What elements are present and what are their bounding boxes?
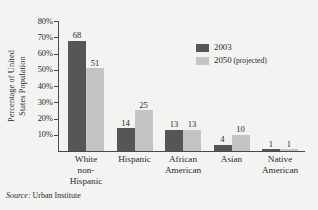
bar-value-label: 4 [220,135,224,144]
legend-label: 2003 [214,43,232,52]
y-tick-label: 40% [38,82,53,90]
legend-label-suffix: (projected) [232,56,267,65]
y-tick-30%: 30% [58,102,59,103]
y-axis-title-line-2: States Population [17,50,28,122]
legend: 20032050 (projected) [196,41,267,67]
y-tick-label: 10% [38,131,53,139]
bar[interactable]: 1 [280,149,298,151]
bar-value-label: 1 [269,140,273,149]
legend-swatch [196,57,209,65]
bar-group: 1425 [117,21,153,151]
category-label-line: American [240,165,318,176]
category-label-line: non- [46,165,126,176]
bar[interactable]: 14 [117,128,135,151]
bar-value-label: 14 [121,119,130,128]
y-tick-80%: 80% [58,21,59,22]
y-tick-mark [54,86,58,87]
y-axis-title: Percentage of United States Population [0,18,34,154]
y-axis-title-line-1: Percentage of United [6,50,17,122]
source-label: Source: [6,191,31,200]
bar[interactable]: 13 [165,130,183,151]
bar[interactable]: 1 [262,149,280,151]
category-label-line: American [143,165,223,176]
plot-area: 80%70%60%50%40%30%20%10% 685114251313410… [58,21,305,152]
legend-item-2003[interactable]: 2003 [196,41,267,54]
bar[interactable]: 51 [86,68,104,151]
bar-value-label: 51 [91,59,100,68]
bar-value-label: 13 [170,120,179,129]
bar[interactable]: 4 [214,145,232,152]
y-tick-label: 70% [38,34,53,42]
bar[interactable]: 10 [232,135,250,151]
legend-label: 2050 (projected) [214,56,267,65]
bar-group: 11 [262,21,298,151]
category-label-line: Native [240,154,318,165]
y-tick-mark [54,135,58,136]
y-tick-label: 30% [38,99,53,107]
bar[interactable]: 13 [183,130,201,151]
y-tick-label: 80% [38,17,53,25]
y-tick-50%: 50% [58,70,59,71]
y-tick-mark [54,70,58,71]
y-tick-label: 60% [38,50,53,58]
bar[interactable]: 25 [135,110,153,151]
bar-value-label: 25 [139,101,148,110]
y-tick-mark [54,102,58,103]
y-tick-60%: 60% [58,54,59,55]
bar-value-label: 13 [188,120,197,129]
bar-value-label: 68 [73,31,82,40]
source-text: Urban Institute [33,191,81,200]
bar-chart-figure: Percentage of United States Population 8… [0,0,318,210]
legend-swatch [196,44,209,52]
x-axis-line [58,151,305,152]
bar[interactable]: 68 [68,41,86,152]
legend-item-2050[interactable]: 2050 (projected) [196,54,267,67]
y-tick-40%: 40% [58,86,59,87]
y-tick-mark [54,37,58,38]
y-tick-label: 20% [38,115,53,123]
category-label: NativeAmerican [240,154,318,176]
source-note: Source: Urban Institute [6,191,81,200]
y-tick-20%: 20% [58,119,59,120]
y-tick-label: 50% [38,66,53,74]
y-tick-10%: 10% [58,135,59,136]
y-tick-mark [54,21,58,22]
y-tick-mark [54,54,58,55]
bar-value-label: 10 [236,125,245,134]
bar-value-label: 1 [287,140,291,149]
y-tick-mark [54,119,58,120]
y-tick-70%: 70% [58,37,59,38]
bar-group: 6851 [68,21,104,151]
category-label-line: Hispanic [46,176,126,187]
